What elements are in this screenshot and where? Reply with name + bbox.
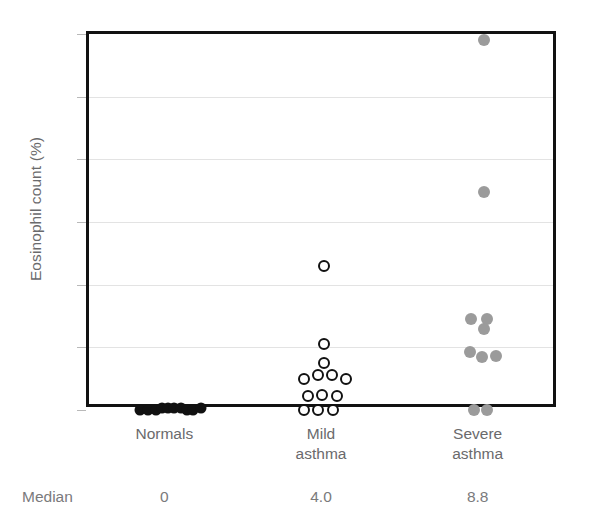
- x-axis-category-label: Normals: [135, 424, 193, 444]
- data-point: [478, 323, 490, 335]
- data-point: [490, 350, 502, 362]
- y-axis-tick: [77, 347, 86, 348]
- x-axis-category-label: Severe asthma: [452, 424, 503, 465]
- data-point: [312, 404, 324, 416]
- y-axis-tick: [77, 97, 86, 98]
- data-point: [298, 373, 310, 385]
- data-point: [327, 404, 339, 416]
- data-point: [340, 373, 352, 385]
- y-axis-title: Eosinophil count (%): [27, 69, 45, 349]
- data-point: [331, 390, 343, 402]
- data-point: [478, 34, 490, 46]
- y-axis-tick: [77, 159, 86, 160]
- data-point: [326, 369, 338, 381]
- median-value: 4.0: [310, 488, 332, 506]
- data-point: [318, 260, 330, 272]
- gridline: [89, 97, 553, 98]
- y-axis-tick: [77, 34, 86, 35]
- y-axis-tick: [77, 410, 86, 411]
- scatter-plot-figure: Eosinophil count (%) 0102030405060 Norma…: [0, 0, 597, 532]
- data-point: [465, 313, 477, 325]
- data-point: [302, 390, 314, 402]
- data-point: [464, 346, 476, 358]
- data-point: [316, 389, 328, 401]
- plot-frame: [86, 31, 556, 407]
- data-point: [478, 186, 490, 198]
- gridline: [89, 222, 553, 223]
- data-point: [318, 338, 330, 350]
- y-axis-tick: [77, 222, 86, 223]
- plot-area: [89, 34, 553, 404]
- median-value: 0: [160, 488, 169, 506]
- data-point: [481, 404, 493, 416]
- data-point: [196, 403, 207, 414]
- gridline: [89, 159, 553, 160]
- y-axis-tick: [77, 285, 86, 286]
- data-point: [468, 404, 480, 416]
- data-point: [298, 404, 310, 416]
- median-value: 8.8: [467, 488, 489, 506]
- gridline: [89, 285, 553, 286]
- data-point: [312, 369, 324, 381]
- x-axis-category-label: Mild asthma: [296, 424, 347, 465]
- data-point: [476, 351, 488, 363]
- median-row-label: Median: [22, 488, 73, 506]
- data-point: [318, 357, 330, 369]
